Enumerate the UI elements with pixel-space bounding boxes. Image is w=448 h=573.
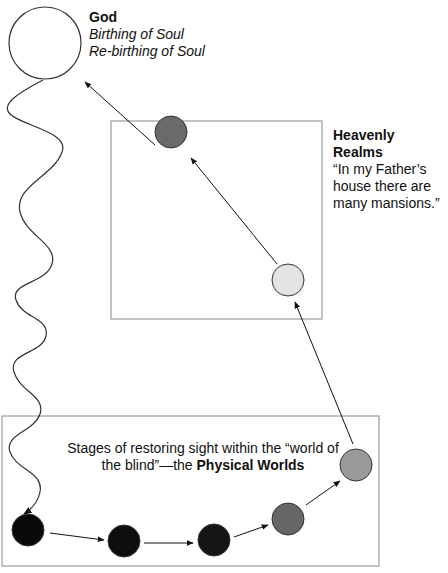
god-label: God Birthing of Soul Re-birthing of Soul: [89, 9, 205, 60]
physical-stage-4-circle: [272, 503, 304, 535]
heavenly-dark-circle: [155, 116, 187, 148]
quote-line-3: many mansions.”: [333, 195, 448, 212]
soul-descent-wave: [7, 80, 63, 514]
heavenly-realms-title: Heavenly Realms: [333, 127, 448, 161]
arrow-stage3-to-stage4: [234, 525, 268, 537]
birthing-of-soul-text: Birthing of Soul: [89, 26, 205, 43]
physical-stage-3-circle: [198, 524, 230, 556]
heavenly-realms-label: Heavenly Realms “In my Father’s house th…: [333, 127, 448, 212]
arrow-heaven-light-to-dark: [191, 158, 277, 264]
physical-worlds-label: Stages of restoring sight within the “wo…: [58, 440, 348, 474]
physical-worlds-bold: Physical Worlds: [197, 457, 305, 473]
arrow-stage1-to-stage2: [50, 533, 104, 540]
quote-line-1: “In my Father’s: [333, 161, 448, 178]
quote-line-2: house there are: [333, 178, 448, 195]
arrow-stage4-to-stage5: [306, 481, 340, 505]
physical-stage-2-circle: [108, 525, 140, 557]
god-circle: [9, 7, 81, 79]
re-birthing-of-soul-text: Re-birthing of Soul: [89, 43, 205, 60]
arrow-stage5-to-heaven-light: [295, 302, 353, 444]
god-title: God: [89, 9, 205, 26]
heavenly-light-circle: [272, 264, 304, 296]
diagram-canvas: [0, 0, 448, 573]
arrow-heaven-dark-to-god: [85, 82, 155, 145]
physical-stage-1-circle: [12, 514, 44, 546]
